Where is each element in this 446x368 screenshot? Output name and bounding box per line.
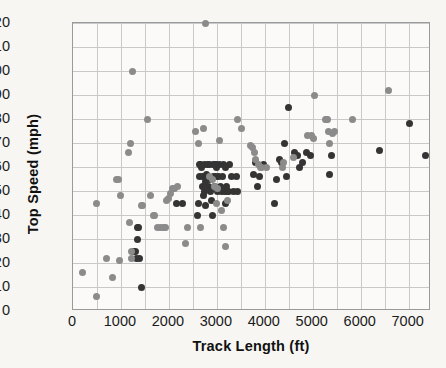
data-point: [307, 152, 314, 159]
data-point: [195, 200, 202, 207]
data-point: [79, 269, 86, 276]
data-point: [218, 207, 225, 214]
gridline-horizontal: [73, 287, 429, 288]
data-point: [406, 120, 413, 127]
data-point: [324, 116, 331, 123]
gridline-vertical: [169, 23, 170, 309]
data-point: [385, 87, 392, 94]
plot-area: [72, 22, 430, 310]
gridline-vertical: [121, 23, 122, 309]
data-point: [290, 154, 297, 161]
data-point: [422, 152, 429, 159]
y-tick-label: 80: [0, 111, 10, 126]
data-point: [192, 128, 199, 135]
gridline-horizontal: [73, 47, 429, 48]
data-point: [103, 255, 110, 262]
scatter-plot-figure: 0102030405060708090100110120 01000200030…: [0, 0, 446, 368]
y-tick-label: 40: [0, 207, 10, 222]
data-point: [222, 243, 229, 250]
data-point: [238, 125, 245, 132]
data-point: [326, 140, 333, 147]
data-point: [220, 224, 227, 231]
data-point: [285, 104, 292, 111]
data-point: [197, 224, 204, 231]
data-point: [224, 197, 231, 204]
gridline-vertical: [409, 23, 410, 309]
data-point: [273, 176, 280, 183]
data-point: [200, 125, 207, 132]
data-point: [233, 173, 240, 180]
gridline-vertical: [337, 23, 338, 309]
data-point: [310, 135, 317, 142]
data-point: [376, 147, 383, 154]
data-point: [174, 183, 181, 190]
data-point: [234, 188, 241, 195]
x-tick-label: 7000: [373, 314, 443, 329]
data-point: [184, 224, 191, 231]
data-point: [129, 68, 136, 75]
data-point: [281, 140, 288, 147]
gridline-horizontal: [73, 119, 429, 120]
data-point: [162, 224, 169, 231]
data-point: [328, 152, 335, 159]
data-point: [251, 149, 258, 156]
y-tick-label: 50: [0, 183, 10, 198]
data-point: [117, 192, 124, 199]
gridline-vertical: [241, 23, 242, 309]
data-point: [326, 171, 333, 178]
y-tick-label: 110: [0, 39, 10, 54]
data-point: [209, 212, 216, 219]
data-point: [234, 116, 241, 123]
data-point: [151, 212, 158, 219]
gridline-horizontal: [73, 263, 429, 264]
data-point: [125, 149, 132, 156]
data-point: [182, 240, 189, 247]
data-point: [93, 200, 100, 207]
data-point: [299, 159, 306, 166]
data-point: [219, 173, 226, 180]
data-point: [256, 173, 263, 180]
data-point: [134, 236, 141, 243]
y-tick-label: 70: [0, 135, 10, 150]
data-point: [311, 92, 318, 99]
gridline-vertical: [385, 23, 386, 309]
gridline-horizontal: [73, 71, 429, 72]
data-point: [116, 257, 123, 264]
data-point: [331, 128, 338, 135]
data-point: [263, 164, 270, 171]
gridline-vertical: [313, 23, 314, 309]
data-point: [126, 219, 133, 226]
data-point: [195, 140, 202, 147]
data-point: [254, 183, 261, 190]
data-point: [147, 192, 154, 199]
gridline-vertical: [193, 23, 194, 309]
data-point: [202, 202, 209, 209]
gridline-horizontal: [73, 191, 429, 192]
gridline-vertical: [289, 23, 290, 309]
y-tick-label: 0: [0, 303, 10, 318]
gridline-horizontal: [73, 239, 429, 240]
data-point: [128, 248, 135, 255]
data-point: [115, 176, 122, 183]
y-tick-label: 120: [0, 15, 10, 30]
data-point: [222, 164, 229, 171]
gridline-horizontal: [73, 95, 429, 96]
gridline-vertical: [361, 23, 362, 309]
gridline-vertical: [97, 23, 98, 309]
y-tick-label: 10: [0, 279, 10, 294]
data-point: [93, 293, 100, 300]
data-point: [139, 202, 146, 209]
y-tick-label: 60: [0, 159, 10, 174]
gridline-horizontal: [73, 215, 429, 216]
y-tick-label: 30: [0, 231, 10, 246]
y-tick-label: 100: [0, 63, 10, 78]
data-point: [135, 224, 142, 231]
y-axis-title: Top Speed (mph): [25, 59, 41, 289]
data-point: [213, 200, 220, 207]
data-point: [194, 212, 201, 219]
data-point: [138, 284, 145, 291]
data-point: [144, 116, 151, 123]
gridline-vertical: [145, 23, 146, 309]
gridline-horizontal: [73, 167, 429, 168]
data-point: [271, 200, 278, 207]
